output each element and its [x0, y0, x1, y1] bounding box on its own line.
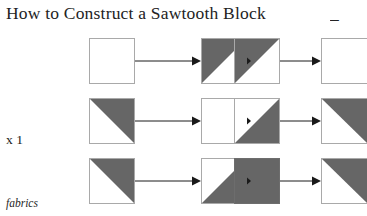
- patch-r1c4: [321, 38, 367, 84]
- arrow-r2c3-c4: [280, 115, 321, 127]
- patch-r2c1: [89, 98, 135, 144]
- triangle-lower-right-icon: [235, 99, 279, 143]
- patch-r1c1: [89, 38, 135, 84]
- arrow-r3c3-c4: [280, 175, 321, 187]
- patch-r2c3: [234, 98, 280, 144]
- triangle-upper-right-icon: [322, 99, 367, 143]
- patch-r3c3: [234, 158, 280, 204]
- triangle-upper-left-icon: [235, 39, 279, 83]
- arrow-r1c1-c2: [135, 55, 201, 67]
- arrow-r3c1-c2: [135, 175, 201, 187]
- patch-r3c1: [89, 158, 135, 204]
- patch-r1c3: [234, 38, 280, 84]
- triangle-upper-right-icon: [90, 159, 134, 203]
- arrow-r1c3-c4: [280, 55, 321, 67]
- triangle-upper-right-icon: [90, 99, 134, 143]
- patch-r2c4: [321, 98, 367, 144]
- triangle-upper-right-icon: [322, 159, 367, 203]
- arrow-r2c1-c2: [135, 115, 201, 127]
- patch-r3c4: [321, 158, 367, 204]
